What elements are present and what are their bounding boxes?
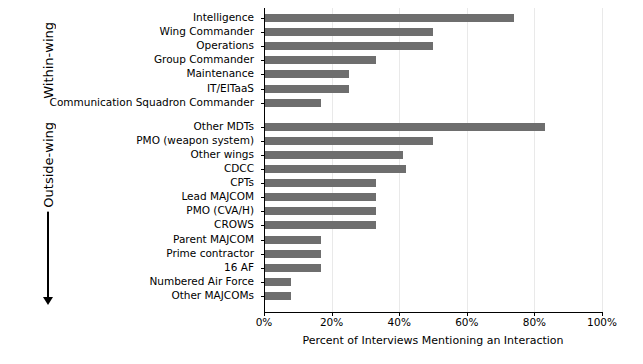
category-label: Maintenance [186, 68, 254, 79]
x-axis-line [264, 312, 602, 313]
group-axis-label-outside-wing: Outside-wing [41, 118, 56, 212]
group-axis: Within-wing Outside-wing [0, 0, 96, 320]
category-label: Other wings [191, 149, 254, 160]
plot-area [264, 8, 602, 313]
bar [265, 278, 291, 286]
category-label: Group Commander [154, 54, 254, 65]
y-tick-mark [261, 60, 264, 61]
gridline-80% [534, 8, 535, 313]
category-label: CDCC [224, 163, 254, 174]
category-label: 16 AF [224, 262, 254, 273]
category-label: PMO (weapon system) [136, 135, 254, 146]
category-label: CROWS [214, 219, 254, 230]
group-axis-outside-wing: Outside-wing [0, 118, 96, 305]
bar [265, 250, 321, 258]
bar [265, 123, 545, 131]
category-label: Intelligence [193, 12, 254, 23]
y-tick-mark [261, 296, 264, 297]
y-tick-mark [261, 183, 264, 184]
bar [265, 179, 376, 187]
y-tick-mark [261, 141, 264, 142]
category-label: Wing Commander [160, 26, 254, 37]
x-axis-ticks: 0%20%40%60%80%100% [264, 316, 602, 332]
y-tick-mark [261, 18, 264, 19]
category-label: Prime contractor [166, 248, 254, 259]
y-tick-mark [261, 32, 264, 33]
bar [265, 207, 376, 215]
bar [265, 85, 349, 93]
category-label: Operations [196, 40, 254, 51]
category-label: Other MAJCOMs [171, 290, 254, 301]
arrow-down-icon [43, 297, 53, 305]
bar [265, 28, 433, 36]
bar [265, 264, 321, 272]
bar [265, 221, 376, 229]
category-label: Lead MAJCOM [181, 191, 254, 202]
x-tick-label-40%: 40% [388, 316, 411, 328]
bar [265, 193, 376, 201]
x-tick-label-60%: 60% [455, 316, 478, 328]
group-axis-label-within-wing: Within-wing [41, 22, 56, 99]
y-tick-mark [261, 225, 264, 226]
bar [265, 137, 433, 145]
y-tick-mark [261, 282, 264, 283]
category-label: IT/EITaaS [207, 83, 254, 94]
y-tick-mark [261, 127, 264, 128]
y-tick-mark [261, 240, 264, 241]
y-tick-mark [261, 89, 264, 90]
x-tick-label-100%: 100% [587, 316, 617, 328]
y-tick-mark [261, 74, 264, 75]
gridline-20% [332, 8, 333, 313]
bar [265, 42, 433, 50]
x-tick-label-0%: 0% [256, 316, 273, 328]
x-tick-label-80%: 80% [523, 316, 546, 328]
bar [265, 236, 321, 244]
bar [265, 70, 349, 78]
x-axis-title: Percent of Interviews Mentioning an Inte… [264, 334, 602, 347]
bar [265, 56, 376, 64]
category-label: Other MDTs [194, 121, 254, 132]
y-tick-mark [261, 268, 264, 269]
bar [265, 165, 406, 173]
y-tick-mark [261, 197, 264, 198]
category-label: CPTs [230, 177, 254, 188]
bar [265, 151, 403, 159]
y-tick-mark [261, 155, 264, 156]
category-label: Parent MAJCOM [173, 234, 254, 245]
gridline-60% [467, 8, 468, 313]
gridline-40% [399, 8, 400, 313]
y-tick-mark [261, 169, 264, 170]
bar [265, 292, 291, 300]
y-tick-mark [261, 211, 264, 212]
y-tick-mark [261, 103, 264, 104]
gridline-100% [602, 8, 603, 313]
category-label: Communication Squadron Commander [50, 97, 254, 108]
bar-chart: Within-wing Outside-wing IntelligenceWin… [0, 0, 643, 364]
category-label: Numbered Air Force [149, 276, 254, 287]
bar [265, 99, 321, 107]
category-label: PMO (CVA/H) [186, 205, 254, 216]
y-tick-mark [261, 46, 264, 47]
category-labels: IntelligenceWing CommanderOperationsGrou… [96, 0, 260, 320]
y-tick-mark [261, 254, 264, 255]
bar [265, 14, 514, 22]
x-tick-label-20%: 20% [320, 316, 343, 328]
